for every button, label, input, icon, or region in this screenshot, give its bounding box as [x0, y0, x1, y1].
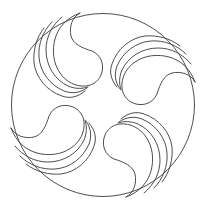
- paisley-motif-top-left: [34, 13, 103, 97]
- circular-paisley-figure: [0, 0, 205, 210]
- paisley-motif-bottom-right: [103, 113, 172, 197]
- paisley-motif-bottom-left: [11, 105, 95, 174]
- outer-circle: [12, 14, 195, 197]
- paisley-motif-top-right: [111, 36, 195, 105]
- design-canvas: [0, 0, 205, 210]
